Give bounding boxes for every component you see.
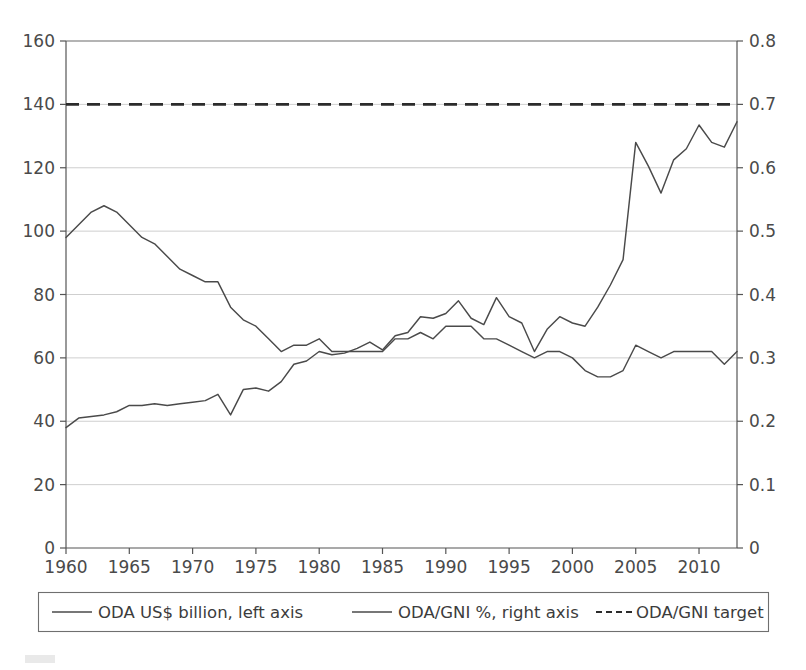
bottom-axis-tick-label: 1995: [487, 557, 530, 577]
left-axis-tick-label: 160: [23, 31, 55, 51]
left-axis-tick-label: 120: [23, 158, 55, 178]
right-axis-tick-label: 0.3: [749, 348, 776, 368]
right-axis-tick-label: 0.6: [749, 158, 776, 178]
right-axis-tick-label: 0: [749, 538, 760, 558]
bottom-axis-tick-label: 1985: [361, 557, 404, 577]
legend-label-0: ODA US$ billion, left axis: [98, 603, 303, 622]
right-axis-tick-label: 0.4: [749, 285, 776, 305]
left-axis-tick-label: 60: [33, 348, 55, 368]
right-axis-tick-label: 0.7: [749, 94, 776, 114]
oda-line-chart: 020406080100120140160 00.10.20.30.40.50.…: [0, 0, 806, 670]
right-axis-tick-label: 0.8: [749, 31, 776, 51]
left-axis-tick-label: 80: [33, 285, 55, 305]
bottom-axis-tick-label: 1975: [234, 557, 277, 577]
right-axis-tick-label: 0.5: [749, 221, 776, 241]
page-corner-artifact: [25, 655, 55, 663]
bottom-axis-tick-label: 1960: [44, 557, 87, 577]
left-axis-tick-label: 0: [44, 538, 55, 558]
left-axis-tick-label: 140: [23, 94, 55, 114]
bottom-axis-tick-label: 1980: [298, 557, 341, 577]
bottom-axis-tick-label: 2010: [677, 557, 720, 577]
right-axis-tick-label: 0.2: [749, 411, 776, 431]
left-axis-tick-label: 20: [33, 475, 55, 495]
bottom-axis-tick-label: 1970: [171, 557, 214, 577]
bottom-axis-tick-label: 2005: [614, 557, 657, 577]
bottom-axis-tick-label: 1990: [424, 557, 467, 577]
bottom-axis-tick-label: 2000: [551, 557, 594, 577]
right-axis-tick-label: 0.1: [749, 475, 776, 495]
chart-container: 020406080100120140160 00.10.20.30.40.50.…: [0, 0, 806, 670]
left-axis-tick-label: 40: [33, 411, 55, 431]
bottom-axis-tick-label: 1965: [108, 557, 151, 577]
legend-label-2: ODA/GNI target: [636, 603, 764, 622]
legend-label-1: ODA/GNI %, right axis: [398, 603, 579, 622]
left-axis-tick-label: 100: [23, 221, 55, 241]
